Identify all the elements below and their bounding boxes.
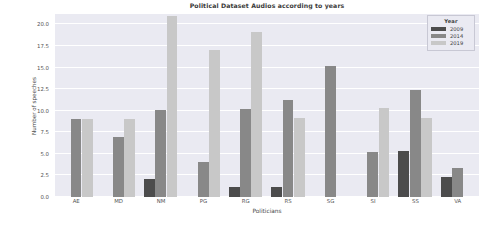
bar <box>167 16 178 197</box>
y-tick-label: 17.5 <box>37 43 49 49</box>
bar-group <box>59 14 93 197</box>
chart-title: Political Dataset Audios according to ye… <box>55 2 479 9</box>
bar <box>155 110 166 197</box>
legend-label: 2014 <box>450 33 463 39</box>
x-tick-label: SS <box>412 198 419 204</box>
bar <box>71 119 82 197</box>
bar-group <box>144 14 178 197</box>
bar <box>271 187 282 197</box>
y-tick-label: 2.5 <box>40 172 49 178</box>
y-tick-label: 0.0 <box>40 194 49 200</box>
legend-label: 2019 <box>450 40 463 46</box>
legend-swatch-icon <box>431 27 446 31</box>
bar <box>198 162 209 197</box>
x-tick-label: PG <box>200 198 207 204</box>
bar <box>82 119 93 197</box>
x-tick-label: SG <box>327 198 335 204</box>
x-tick-label: NM <box>157 198 166 204</box>
bar <box>113 137 124 197</box>
legend-label: 2009 <box>450 26 463 32</box>
x-tick-label: AE <box>73 198 80 204</box>
bar <box>144 179 155 197</box>
x-axis-label: Politicians <box>55 208 479 214</box>
chart-figure: Political Dataset Audios according to ye… <box>0 0 488 229</box>
legend-item[interactable]: 2014 <box>431 33 471 40</box>
bar-group <box>229 14 263 197</box>
y-tick-label: 12.5 <box>37 86 49 92</box>
bar <box>398 151 409 197</box>
x-tick-label: RS <box>285 198 292 204</box>
y-tick-label: 7.5 <box>40 129 49 135</box>
bar <box>294 118 305 197</box>
x-tick-label: MD <box>114 198 123 204</box>
bar <box>421 118 432 197</box>
bar <box>251 32 262 197</box>
x-tick-label: SI <box>370 198 375 204</box>
y-axis-label-wrap: Number of speeches <box>22 14 32 197</box>
bar <box>209 50 220 197</box>
legend-title: Year <box>431 18 471 24</box>
bar-group <box>186 14 220 197</box>
bar <box>124 119 135 197</box>
bar-group <box>356 14 390 197</box>
legend-rows: 200920142019 <box>431 26 471 47</box>
bar-group <box>314 14 348 197</box>
bar <box>452 168 463 197</box>
x-tick-label: VA <box>454 198 461 204</box>
y-tick-label: 15.0 <box>37 65 49 71</box>
bar-group <box>102 14 136 197</box>
legend-swatch-icon <box>431 41 446 45</box>
bar <box>410 90 421 197</box>
bar-group <box>271 14 305 197</box>
legend: Year 200920142019 <box>427 15 475 51</box>
bar <box>229 187 240 197</box>
bar <box>367 152 378 197</box>
legend-item[interactable]: 2019 <box>431 40 471 47</box>
x-axis-ticks: AEMDNMPGRGRSSGSISSVA <box>55 198 479 208</box>
bar <box>441 177 452 197</box>
legend-item[interactable]: 2009 <box>431 26 471 33</box>
y-tick-label: 20.0 <box>37 21 49 27</box>
bar <box>283 100 294 197</box>
bar <box>379 108 390 197</box>
plot-area <box>55 14 479 197</box>
y-tick-label: 5.0 <box>40 151 49 157</box>
y-axis-label: Number of speeches <box>31 56 37 156</box>
x-tick-label: RG <box>242 198 250 204</box>
legend-swatch-icon <box>431 34 446 38</box>
y-tick-label: 10.0 <box>37 108 49 114</box>
bar <box>325 66 336 197</box>
bar <box>240 109 251 197</box>
